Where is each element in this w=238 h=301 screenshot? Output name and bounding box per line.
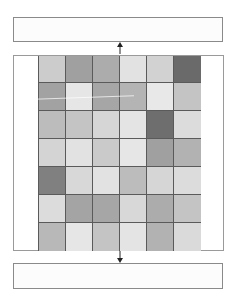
grid-cell xyxy=(174,195,201,223)
grid-cell xyxy=(174,56,201,83)
grid-cell xyxy=(120,56,147,83)
grid-cell xyxy=(174,139,201,167)
grid-cell xyxy=(93,195,120,223)
diagram-canvas xyxy=(0,0,238,301)
tile-grid xyxy=(38,56,201,251)
grid-frame xyxy=(13,55,224,251)
grid-cell xyxy=(120,139,147,167)
grid-cell xyxy=(39,56,66,83)
grid-cell xyxy=(147,111,174,139)
grid-cell xyxy=(66,83,93,111)
grid-cell xyxy=(147,167,174,195)
grid-cell xyxy=(66,167,93,195)
grid-cell xyxy=(147,139,174,167)
grid-cell xyxy=(66,56,93,83)
grid-cell xyxy=(147,56,174,83)
top-box xyxy=(13,17,223,42)
grid-cell xyxy=(120,167,147,195)
grid-cell xyxy=(174,83,201,111)
grid-cell xyxy=(147,83,174,111)
grid-cell xyxy=(120,111,147,139)
arrow-up-icon xyxy=(117,42,123,54)
grid-cell xyxy=(174,223,201,251)
grid-cell xyxy=(39,139,66,167)
grid-cell xyxy=(39,195,66,223)
arrow-down-icon xyxy=(117,251,123,263)
grid-cell xyxy=(39,83,66,111)
grid-cell xyxy=(147,223,174,251)
grid-cell xyxy=(93,139,120,167)
grid-cell xyxy=(120,195,147,223)
grid-cell xyxy=(93,83,120,111)
grid-cell xyxy=(66,111,93,139)
grid-cell xyxy=(93,111,120,139)
grid-cell xyxy=(39,167,66,195)
grid-cell xyxy=(66,223,93,251)
grid-cell xyxy=(147,195,174,223)
grid-cell xyxy=(39,111,66,139)
bottom-box xyxy=(13,263,223,289)
grid-cell xyxy=(120,223,147,251)
grid-cell xyxy=(39,223,66,251)
grid-cell xyxy=(174,167,201,195)
grid-cell xyxy=(93,167,120,195)
grid-cell xyxy=(66,195,93,223)
grid-cell xyxy=(93,56,120,83)
grid-cell xyxy=(66,139,93,167)
grid-cell xyxy=(174,111,201,139)
grid-cell xyxy=(120,83,147,111)
grid-cell xyxy=(93,223,120,251)
